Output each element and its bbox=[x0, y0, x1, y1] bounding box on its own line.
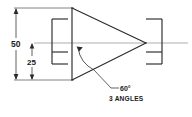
arrowhead-angle-arc bbox=[77, 47, 83, 52]
dimension-label-25: 25 bbox=[27, 58, 36, 67]
right-bracket-group bbox=[146, 19, 162, 64]
dimension-label-50: 50 bbox=[11, 39, 21, 49]
angle-leader-line bbox=[94, 70, 111, 88]
left-bracket-group bbox=[52, 19, 68, 64]
dimension-25-group: 25 bbox=[26, 43, 41, 80]
arrowhead-50-top bbox=[14, 8, 19, 14]
annotation-label-angle-count: 3 ANGLES bbox=[109, 95, 144, 102]
angle-arc bbox=[78, 48, 94, 70]
cone-upper-slant-edge bbox=[72, 8, 146, 43]
annotation-label-apex-angle: 60° bbox=[120, 85, 131, 92]
engineering-drawing-svg: 50 25 bbox=[0, 0, 192, 117]
arrowhead-25-top bbox=[30, 43, 35, 49]
angle-count-note-group: 3 ANGLES bbox=[109, 95, 144, 102]
dimension-50-group: 50 bbox=[10, 8, 26, 80]
arrowhead-25-bottom bbox=[30, 74, 35, 80]
arrowhead-50-bottom bbox=[14, 74, 19, 80]
apex-angle-dimension-group: 60° bbox=[77, 47, 131, 92]
technical-drawing-canvas: 50 25 bbox=[0, 0, 192, 117]
cone-profile-group bbox=[72, 8, 146, 80]
